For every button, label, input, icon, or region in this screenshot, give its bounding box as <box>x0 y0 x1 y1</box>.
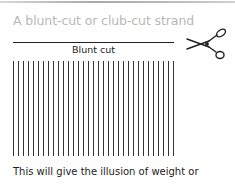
hair-strand <box>108 61 109 156</box>
hair-strand <box>48 61 49 156</box>
hair-strand <box>158 61 159 156</box>
hair-strand <box>63 61 64 156</box>
cut-label: Blunt cut <box>13 44 174 55</box>
hair-strand <box>33 61 34 156</box>
hair-strands <box>13 61 183 156</box>
hair-strand <box>93 61 94 156</box>
hair-strand <box>113 61 114 156</box>
hair-strand <box>43 61 44 156</box>
cut-line <box>13 42 174 43</box>
hair-strand <box>53 61 54 156</box>
hair-strand <box>128 61 129 156</box>
hair-strand <box>38 61 39 156</box>
top-border <box>0 1 235 3</box>
hair-strand <box>28 61 29 156</box>
hair-strand <box>153 61 154 156</box>
hair-strand <box>138 61 139 156</box>
hair-strand <box>83 61 84 156</box>
hair-strand <box>148 61 149 156</box>
hair-strand <box>168 61 169 156</box>
scissors-icon <box>185 27 229 61</box>
hair-strand <box>118 61 119 156</box>
hair-strand <box>143 61 144 156</box>
hair-strand <box>13 61 14 156</box>
hair-strand <box>68 61 69 156</box>
hair-strand <box>163 61 164 156</box>
hair-strand <box>58 61 59 156</box>
hair-strand <box>133 61 134 156</box>
hair-strand <box>88 61 89 156</box>
hair-strand <box>123 61 124 156</box>
hair-strand <box>18 61 19 156</box>
hair-strand <box>98 61 99 156</box>
caption: This will give the illusion of weight or <box>13 166 199 177</box>
figure-title: A blunt-cut or club-cut strand <box>13 13 194 28</box>
hair-strand <box>78 61 79 156</box>
hair-strand <box>173 61 174 156</box>
hair-strand <box>23 61 24 156</box>
hair-strand <box>73 61 74 156</box>
hair-strand <box>103 61 104 156</box>
